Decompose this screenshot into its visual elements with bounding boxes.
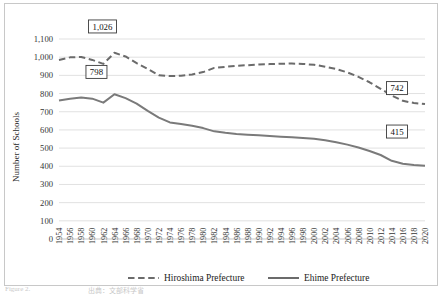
x-tick-1976: 1976 bbox=[177, 228, 186, 244]
callout-ehime-peak: 798 bbox=[86, 65, 107, 78]
caption-fragment-mid: 出典：文部科学省 bbox=[88, 286, 144, 294]
callout-value: 415 bbox=[390, 127, 404, 137]
data-series-group bbox=[59, 53, 425, 166]
y-axis-title: Number of Schools bbox=[11, 112, 21, 182]
x-tick-1980: 1980 bbox=[199, 228, 208, 244]
data-callouts-group: 1,026798742415 bbox=[86, 20, 408, 138]
x-tick-1992: 1992 bbox=[266, 228, 275, 244]
chart-legend: Hiroshima PrefectureEhime Prefecture bbox=[128, 273, 369, 283]
x-tick-2004: 2004 bbox=[332, 228, 341, 244]
x-tick-1964: 1964 bbox=[111, 228, 120, 244]
legend-label: Hiroshima Prefecture bbox=[164, 273, 244, 283]
clipped-caption: Figure 2. 出典：文部科学省 bbox=[0, 286, 443, 294]
x-tick-2016: 2016 bbox=[399, 228, 408, 244]
callout-hiroshima-peak: 1,026 bbox=[88, 20, 116, 33]
x-tick-1968: 1968 bbox=[133, 228, 142, 244]
x-tick-1956: 1956 bbox=[66, 228, 75, 244]
y-tick-200: 200 bbox=[40, 198, 53, 208]
x-tick-1982: 1982 bbox=[210, 228, 219, 244]
legend-item-hiroshima[interactable]: Hiroshima Prefecture bbox=[128, 273, 244, 283]
x-tick-2014: 2014 bbox=[388, 228, 397, 244]
callout-hiroshima-end: 742 bbox=[387, 82, 408, 95]
y-tick-1100: 1,100 bbox=[34, 34, 53, 44]
x-tick-1962: 1962 bbox=[100, 228, 109, 244]
x-tick-2008: 2008 bbox=[355, 228, 364, 244]
x-tick-1984: 1984 bbox=[222, 228, 231, 244]
y-tick-1000: 1,000 bbox=[34, 52, 53, 62]
callout-value: 1,026 bbox=[93, 22, 113, 32]
x-tick-1958: 1958 bbox=[77, 228, 86, 244]
callout-value: 798 bbox=[90, 67, 104, 77]
x-tick-1998: 1998 bbox=[299, 228, 308, 244]
y-tick-300: 300 bbox=[40, 179, 53, 189]
caption-fragment-left: Figure 2. bbox=[5, 286, 30, 293]
x-tick-1988: 1988 bbox=[244, 228, 253, 244]
x-tick-1996: 1996 bbox=[288, 228, 297, 244]
x-tick-1990: 1990 bbox=[255, 228, 264, 244]
legend-item-ehime[interactable]: Ehime Prefecture bbox=[268, 273, 369, 283]
y-tick-400: 400 bbox=[40, 161, 53, 171]
x-tick-1972: 1972 bbox=[155, 228, 164, 244]
x-tick-1970: 1970 bbox=[144, 228, 153, 244]
series-line-hiroshima bbox=[59, 53, 425, 104]
x-tick-2006: 2006 bbox=[344, 228, 353, 244]
gridlines-group bbox=[59, 39, 425, 239]
x-tick-1974: 1974 bbox=[166, 228, 175, 244]
x-tick-2000: 2000 bbox=[310, 228, 319, 244]
y-axis-tick-labels: 01002003004005006007008009001,0001,100 bbox=[34, 34, 53, 244]
x-tick-1978: 1978 bbox=[188, 228, 197, 244]
x-axis-tick-labels: 1954195619581960196219641966196819701972… bbox=[55, 228, 430, 244]
x-tick-2018: 2018 bbox=[410, 228, 419, 244]
callout-ehime-end: 415 bbox=[387, 125, 408, 138]
y-tick-700: 700 bbox=[40, 107, 53, 117]
x-tick-1966: 1966 bbox=[122, 228, 131, 244]
x-tick-1954: 1954 bbox=[55, 228, 64, 244]
y-tick-600: 600 bbox=[40, 125, 53, 135]
x-tick-1960: 1960 bbox=[88, 228, 97, 244]
x-tick-2012: 2012 bbox=[377, 228, 386, 244]
y-tick-900: 900 bbox=[40, 70, 53, 80]
x-tick-1986: 1986 bbox=[233, 228, 242, 244]
y-tick-100: 100 bbox=[40, 216, 53, 226]
legend-label: Ehime Prefecture bbox=[304, 273, 369, 283]
x-tick-2010: 2010 bbox=[366, 228, 375, 244]
callout-value: 742 bbox=[390, 83, 403, 93]
y-tick-0: 0 bbox=[49, 234, 53, 244]
y-tick-500: 500 bbox=[40, 143, 53, 153]
figure-container: 01002003004005006007008009001,0001,100 1… bbox=[0, 0, 443, 294]
x-tick-1994: 1994 bbox=[277, 228, 286, 244]
line-chart: 01002003004005006007008009001,0001,100 1… bbox=[0, 0, 443, 294]
x-tick-2002: 2002 bbox=[321, 228, 330, 244]
y-tick-800: 800 bbox=[40, 89, 53, 99]
x-tick-2020: 2020 bbox=[421, 228, 430, 244]
